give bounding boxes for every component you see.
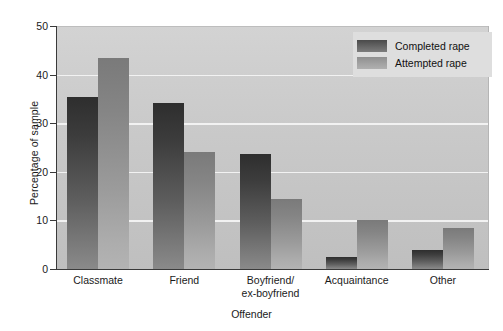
y-axis-tick-label: 30 [2,117,48,129]
bar [412,250,443,269]
y-axis-tick-label: 40 [2,69,48,81]
y-axis-tick [50,172,57,173]
legend-label: Completed rape [395,40,470,52]
bar [443,228,474,269]
bar [326,257,357,269]
y-axis-tick-label: 10 [2,214,48,226]
bar [271,199,302,269]
bar [184,152,215,269]
bar [67,97,98,269]
y-axis-tick [50,123,57,124]
legend-item: Attempted rape [357,54,488,71]
y-axis-tick-label: 50 [2,20,48,32]
bar-chart: Percentage of sample 01020304050 Complet… [0,0,503,331]
legend-swatch [357,57,387,69]
y-axis-tick [50,26,57,27]
bar [153,103,184,269]
y-axis-tick-label: 20 [2,166,48,178]
x-axis-tick-label-line: Other [383,274,503,287]
y-axis-tick [50,269,57,270]
bar [98,58,129,269]
x-axis-tick-label-line: ex-boyfriend [211,287,331,300]
chart-legend: Completed rapeAttempted rape [353,32,492,77]
y-axis-tick [50,75,57,76]
legend-label: Attempted rape [395,57,467,69]
plot-border-top [57,26,488,27]
bar [357,220,388,269]
legend-swatch [357,40,387,52]
legend-item: Completed rape [357,37,488,54]
y-axis-tick [50,220,57,221]
x-axis-title: Offender [0,308,503,320]
x-axis-line [50,269,489,270]
bar [240,154,271,269]
x-axis-tick-label: Other [383,274,503,287]
